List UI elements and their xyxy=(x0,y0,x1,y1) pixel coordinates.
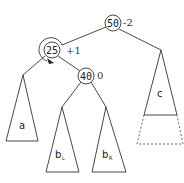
node-50-balance: -2 xyxy=(123,17,133,28)
node-25-key: 25 xyxy=(46,45,58,56)
node-40-balance: 0 xyxy=(97,70,103,81)
subtree-a-label: a xyxy=(19,120,25,131)
subtree-a: a xyxy=(6,75,38,141)
subtree-bR-label: b xyxy=(102,149,108,160)
rotation-arrowhead-icon xyxy=(47,58,54,64)
edge-40-bR xyxy=(91,82,106,107)
node-40: 40 0 xyxy=(78,68,103,84)
subtree-bL-label: b xyxy=(55,149,61,160)
edge-40-bL xyxy=(62,82,81,107)
avl-tree-diagram: a b L b R c 50 -2 25 +1 40 0 xyxy=(0,0,184,183)
subtree-b-left: b L xyxy=(46,107,79,172)
subtree-c-dashed-extension xyxy=(137,115,183,144)
subtree-bR-subscript: R xyxy=(109,155,113,161)
subtree-b-right: b R xyxy=(92,107,126,172)
node-50: 50 -2 xyxy=(105,15,133,31)
edge-50-c xyxy=(119,29,161,50)
subtree-bL-subscript: L xyxy=(62,155,65,161)
edge-50-25 xyxy=(62,27,106,45)
edge-25-a xyxy=(23,56,45,75)
node-25-balance: +1 xyxy=(66,45,81,56)
subtree-c: c xyxy=(137,50,183,144)
node-50-key: 50 xyxy=(107,18,119,29)
node-25: 25 +1 xyxy=(39,38,81,64)
node-40-key: 40 xyxy=(80,71,92,82)
subtree-c-label: c xyxy=(157,88,163,99)
edge-25-40 xyxy=(58,56,80,71)
